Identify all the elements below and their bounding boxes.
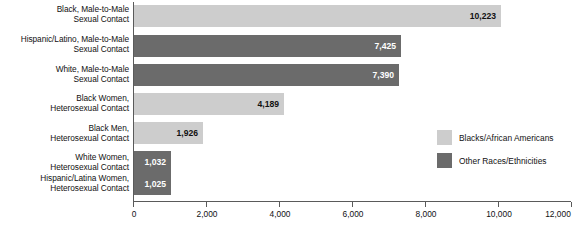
category-label-line: Sexual Contact: [0, 15, 129, 25]
x-axis-tick: [498, 202, 499, 207]
legend-item-blacks-african-americans[interactable]: Blacks/African Americans: [437, 128, 553, 147]
horizontal-bar-chart: Black, Male-to-Male Sexual Contact Hispa…: [0, 0, 575, 225]
x-axis-tick: [206, 202, 207, 207]
category-label: Black, Male-to-Male Sexual Contact: [0, 5, 129, 24]
category-label-line: Sexual Contact: [0, 75, 129, 85]
bar-value-label: 1,025: [144, 179, 166, 189]
x-axis-tick: [571, 202, 572, 207]
bar-white-male-to-male[interactable]: 7,390: [134, 64, 399, 86]
category-label-line: Heterosexual Contact: [0, 134, 129, 144]
legend: Blacks/African Americans Other Races/Eth…: [437, 128, 553, 174]
x-axis-tick-label: 0: [132, 209, 137, 219]
category-label-line: Heterosexual Contact: [0, 184, 129, 194]
category-label: Hispanic/Latina Women, Heterosexual Cont…: [0, 174, 129, 193]
category-label-line: Heterosexual Contact: [0, 104, 129, 114]
category-label: Black Men, Heterosexual Contact: [0, 124, 129, 143]
x-axis-tick-label: 4,000: [270, 209, 291, 219]
category-label: White, Male-to-Male Sexual Contact: [0, 65, 129, 84]
bar-black-male-to-male[interactable]: 10,223: [134, 5, 501, 27]
legend-swatch-icon: [437, 153, 452, 168]
legend-item-other-races-ethnicities[interactable]: Other Races/Ethnicities: [437, 151, 553, 170]
bar-white-women-heterosexual[interactable]: 1,032: [134, 151, 171, 173]
category-label: Hispanic/Latino, Male-to-Male Sexual Con…: [0, 35, 129, 54]
bar-value-label: 1,032: [144, 157, 166, 167]
category-label: Black Women, Heterosexual Contact: [0, 94, 129, 113]
bar-value-label: 1,926: [176, 128, 198, 138]
x-axis-tick-label: 8,000: [416, 209, 437, 219]
bar-black-men-heterosexual[interactable]: 1,926: [134, 122, 203, 144]
legend-item-label: Blacks/African Americans: [459, 133, 553, 143]
x-axis-tick-label: 2,000: [197, 209, 218, 219]
x-axis-tick-label: 6,000: [343, 209, 364, 219]
legend-swatch-icon: [437, 130, 452, 145]
bar-value-label: 4,189: [257, 99, 279, 109]
bar-hispanic-latino-male-to-male[interactable]: 7,425: [134, 35, 401, 57]
category-label: White Women, Heterosexual Contact: [0, 153, 129, 172]
category-label-line: Heterosexual Contact: [0, 163, 129, 173]
x-axis-tick: [279, 202, 280, 207]
x-axis-tick: [352, 202, 353, 207]
bar-black-women-heterosexual[interactable]: 4,189: [134, 93, 284, 115]
x-axis-tick: [425, 202, 426, 207]
bar-hispanic-latina-women-heterosexual[interactable]: 1,025: [134, 173, 171, 195]
x-axis-tick: [133, 202, 134, 207]
legend-item-label: Other Races/Ethnicities: [459, 156, 547, 166]
x-axis-tick-label: 10,000: [486, 209, 512, 219]
bar-value-label: 10,223: [470, 11, 496, 21]
bar-value-label: 7,390: [372, 70, 394, 80]
x-axis-tick-label: 12,000: [545, 209, 571, 219]
bar-value-label: 7,425: [374, 41, 396, 51]
category-label-line: Sexual Contact: [0, 45, 129, 55]
